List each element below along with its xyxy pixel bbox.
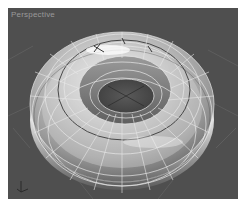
perspective-viewport[interactable]: Perspective <box>8 8 238 199</box>
torus-object[interactable] <box>30 32 214 193</box>
viewport-label[interactable]: Perspective <box>11 10 55 19</box>
axis-tripod-icon <box>16 178 30 194</box>
viewport-scene[interactable] <box>8 8 238 199</box>
